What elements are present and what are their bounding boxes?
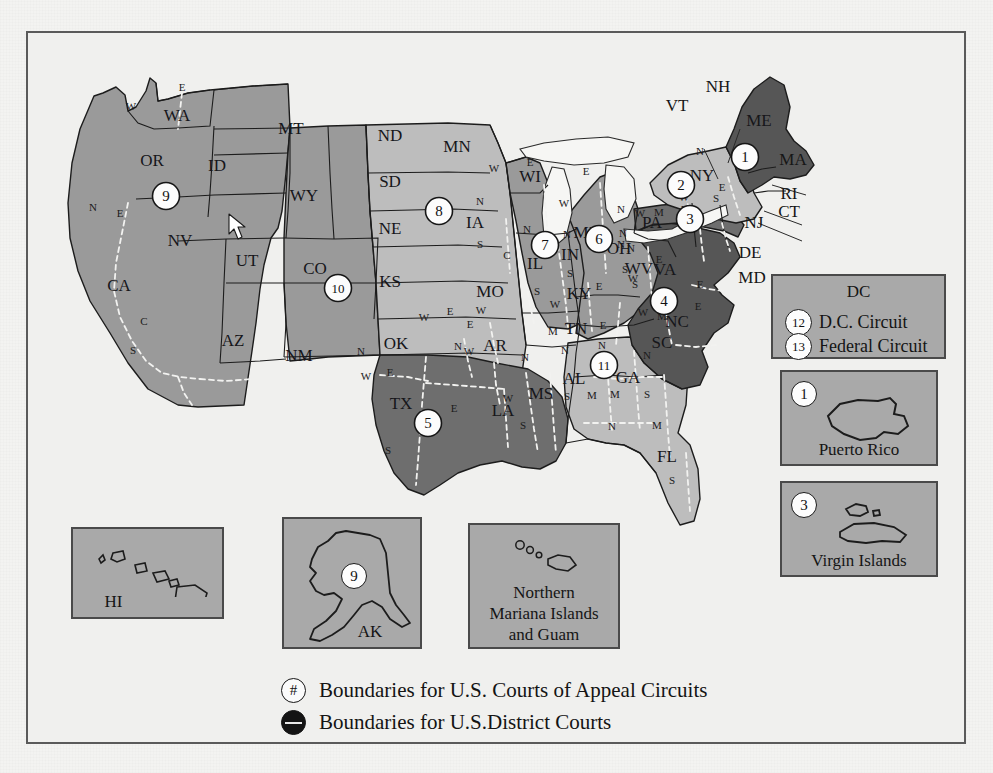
state-label-co: CO xyxy=(303,259,327,278)
circuit-symbol-icon: # xyxy=(281,678,306,703)
district-letter-63: E xyxy=(719,181,726,193)
district-letter-40: N xyxy=(643,349,651,361)
lake-superior xyxy=(520,137,634,165)
virgin-islands-label: Virgin Islands xyxy=(782,551,936,570)
district-letter-0: W xyxy=(126,100,137,112)
state-label-ia: IA xyxy=(466,213,485,232)
district-letter-21: S xyxy=(477,238,483,250)
state-label-az: AZ xyxy=(222,331,245,350)
district-letter-26: S xyxy=(534,285,540,297)
federal-circuit-row[interactable]: 13 Federal Circuit xyxy=(785,333,927,360)
circuit-badge-6[interactable]: 6 xyxy=(586,226,613,253)
district-letter-24: E xyxy=(527,156,534,168)
district-letter-7: E xyxy=(387,366,394,378)
district-letter-59: N xyxy=(617,203,625,215)
district-letter-16: N xyxy=(454,340,462,352)
state-label-ks: KS xyxy=(379,272,401,291)
district-symbol-icon xyxy=(281,710,306,735)
district-letter-15: E xyxy=(447,305,454,317)
state-label-me: ME xyxy=(746,111,772,130)
circuit-badge-7[interactable]: 7 xyxy=(532,232,559,259)
legend-row-circuits: # Boundaries for U.S. Courts of Appeal C… xyxy=(281,678,901,703)
state-label-mt: MT xyxy=(278,119,304,138)
district-letter-58: W xyxy=(635,207,646,219)
district-letter-17: W xyxy=(464,345,475,357)
state-label-nm: NM xyxy=(285,346,312,365)
district-letter-28: E xyxy=(583,165,590,177)
circuit-badge-1[interactable]: 1 xyxy=(732,144,759,171)
circuit-badge-number: 10 xyxy=(332,281,345,296)
dc-circuit-label: D.C. Circuit xyxy=(819,312,908,333)
circuit-badge-10[interactable]: 10 xyxy=(325,275,352,302)
state-label-nc: NC xyxy=(665,312,689,331)
district-letter-44: S xyxy=(669,474,675,486)
state-label-ms: MS xyxy=(529,384,554,403)
legend-row-districts: Boundaries for U.S.District Courts xyxy=(281,710,901,735)
district-letter-3: E xyxy=(117,207,124,219)
dc-circuit-row[interactable]: 12 D.C. Circuit xyxy=(785,309,908,336)
mariana-guam-inset: Northern Mariana Islands and Guam xyxy=(468,523,620,649)
state-label-mo: MO xyxy=(476,282,503,301)
district-letter-62: S xyxy=(713,192,719,204)
district-letter-8: W xyxy=(361,370,372,382)
district-letter-19: W xyxy=(476,304,487,316)
state-label-tn: TN xyxy=(565,319,588,338)
district-letter-36: N xyxy=(561,344,569,356)
state-label-md: MD xyxy=(738,268,765,287)
map-legend: # Boundaries for U.S. Courts of Appeal C… xyxy=(281,678,901,742)
state-label-ky: KY xyxy=(567,284,592,303)
district-letter-10: E xyxy=(451,402,458,414)
state-label-ma: MA xyxy=(779,150,807,169)
circuit-badge-number: 7 xyxy=(541,237,549,253)
district-letter-25: N xyxy=(523,223,531,235)
circuit-badge-3[interactable]: 3 xyxy=(677,206,704,233)
district-letter-47: N xyxy=(617,238,625,250)
circuit-badge-number: 6 xyxy=(595,231,603,247)
district-letter-18: E xyxy=(467,318,474,330)
district-letter-43: M xyxy=(652,419,662,431)
circuit-badge-9[interactable]: 9 xyxy=(153,183,180,210)
district-letter-30: S xyxy=(567,267,573,279)
state-label-la: LA xyxy=(492,401,515,420)
district-letter-14: W xyxy=(419,311,430,323)
district-letter-54: E xyxy=(695,300,702,312)
circuit-badge-11[interactable]: 11 xyxy=(591,352,618,379)
state-label-ne: NE xyxy=(379,219,402,238)
badge-ak-9: 9 xyxy=(341,563,367,589)
district-letter-38: M xyxy=(587,389,597,401)
district-letter-60: N xyxy=(696,145,704,157)
state-label-ct: CT xyxy=(778,202,800,221)
state-label-vt: VT xyxy=(666,96,689,115)
state-label-in: IN xyxy=(561,245,579,264)
district-letter-51: E xyxy=(656,253,663,265)
state-label-ri: RI xyxy=(781,184,798,203)
state-label-ok: OK xyxy=(384,334,409,353)
state-label-ar: AR xyxy=(483,336,507,355)
district-letter-9: S xyxy=(385,444,391,456)
district-letter-33: M xyxy=(548,325,558,337)
district-letter-50: W xyxy=(628,272,639,284)
federal-circuit-label: Federal Circuit xyxy=(819,336,927,357)
circuit-badge-number: 11 xyxy=(598,358,611,373)
circuit-badge-number: 2 xyxy=(677,177,685,193)
district-letter-23: W xyxy=(489,162,500,174)
state-label-wa: WA xyxy=(164,106,191,125)
district-letter-48: N xyxy=(627,242,635,254)
state-label-mn: MN xyxy=(443,137,470,156)
mariana-label-line3: and Guam xyxy=(470,625,618,644)
circuit-badge-5[interactable]: 5 xyxy=(415,410,442,437)
mariana-label-line1: Northern xyxy=(470,583,618,602)
mariana-label-line2: Mariana Islands xyxy=(470,604,618,623)
district-letter-32: W xyxy=(550,298,561,310)
circuit-badge-2[interactable]: 2 xyxy=(668,172,695,199)
alaska-label: AK xyxy=(302,622,438,641)
district-letter-56: M xyxy=(654,206,664,218)
circuit-badge-8[interactable]: 8 xyxy=(426,198,453,225)
district-letter-29: N xyxy=(563,228,571,240)
circuit-badge-number: 4 xyxy=(660,293,668,309)
hawaii-shape xyxy=(73,535,226,597)
puerto-rico-label: Puerto Rico xyxy=(782,440,936,459)
circuit-badge-number: 8 xyxy=(435,203,443,219)
state-label-nj: NJ xyxy=(745,213,764,232)
circuit-badge-4[interactable]: 4 xyxy=(651,288,678,315)
